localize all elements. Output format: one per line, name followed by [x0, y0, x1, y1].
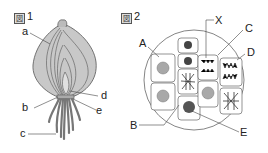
label-X: X [215, 14, 222, 26]
label-d: d [101, 89, 107, 101]
label-b: b [22, 101, 28, 113]
label-A: A [139, 37, 146, 49]
label-B: B [130, 119, 137, 131]
figure-2: 図2 [134, 0, 268, 153]
figure-mark-icon: 図 [121, 13, 132, 24]
label-C: C [245, 22, 253, 34]
figure-1: 図1 [0, 0, 134, 153]
label-E: E [240, 126, 247, 138]
label-c: c [20, 127, 26, 139]
label-D: D [247, 46, 255, 58]
label-e: e [96, 104, 102, 116]
label-a: a [22, 25, 28, 37]
